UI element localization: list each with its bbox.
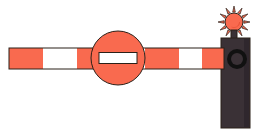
- no-entry-sign-bar: [99, 53, 137, 64]
- barrier-arm-stripe: [9, 48, 43, 69]
- warning-lamp-bulb: [225, 13, 243, 31]
- barrier-post-shading: [244, 39, 249, 127]
- barrier-arm-stripe: [145, 48, 179, 69]
- barrier-arm-stripe: [43, 48, 77, 69]
- illustration-canvas: [0, 0, 265, 135]
- barrier-arm-stripe: [179, 48, 202, 69]
- boom-barrier-illustration: [0, 0, 265, 135]
- arm-pivot-inner-hole: [231, 53, 243, 65]
- barrier-arm-stripe: [202, 48, 224, 69]
